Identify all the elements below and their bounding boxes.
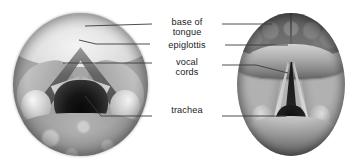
label-epiglottis: epiglottis [152, 40, 222, 50]
label-group: base of tongue epiglottis vocal cords tr… [0, 0, 364, 166]
label-vocal-cords: vocal cords [157, 57, 217, 78]
label-trachea: trachea [155, 105, 219, 115]
label-base-of-tongue: base of tongue [157, 17, 217, 38]
anatomy-figure: base of tongue epiglottis vocal cords tr… [0, 0, 364, 166]
